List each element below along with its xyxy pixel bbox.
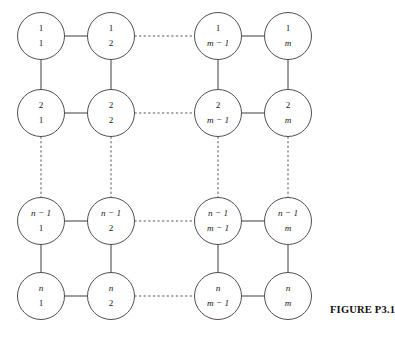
node-circle[interactable] <box>18 273 65 320</box>
node-col-label: 2 <box>109 115 114 125</box>
node-col-label: 2 <box>109 223 114 233</box>
node-circle[interactable] <box>18 198 65 245</box>
node-row-label: 2 <box>109 100 114 110</box>
graph-node[interactable]: 1m <box>265 13 312 60</box>
node-row-label: n <box>286 283 291 293</box>
graph-node[interactable]: 11 <box>18 13 65 60</box>
graph-node[interactable]: nm <box>265 273 312 320</box>
node-col-label: m <box>285 298 292 308</box>
node-col-label: m − 1 <box>207 223 229 233</box>
graph-node[interactable]: n2 <box>88 273 135 320</box>
node-circle[interactable] <box>195 198 242 245</box>
graph-node[interactable]: 2m − 1 <box>195 90 242 137</box>
node-row-label: 1 <box>39 23 44 33</box>
node-col-label: m − 1 <box>207 38 229 48</box>
edge-layer <box>41 36 288 296</box>
graph-node[interactable]: nm − 1 <box>195 273 242 320</box>
node-row-label: 2 <box>216 100 221 110</box>
node-row-label: 1 <box>286 23 291 33</box>
node-col-label: 1 <box>39 38 44 48</box>
node-row-label: n <box>109 283 114 293</box>
node-row-label: n − 1 <box>31 208 51 218</box>
node-row-label: 2 <box>39 100 44 110</box>
node-row-label: n − 1 <box>208 208 228 218</box>
node-col-label: m − 1 <box>207 298 229 308</box>
graph-node[interactable]: n1 <box>18 273 65 320</box>
graph-node[interactable]: n − 12 <box>88 198 135 245</box>
node-col-label: m <box>285 223 292 233</box>
node-circle[interactable] <box>195 13 242 60</box>
graph-node[interactable]: 22 <box>88 90 135 137</box>
node-row-label: 2 <box>286 100 291 110</box>
node-circle[interactable] <box>18 90 65 137</box>
graph-node[interactable]: 12 <box>88 13 135 60</box>
node-row-label: 1 <box>216 23 221 33</box>
graph-node[interactable]: 21 <box>18 90 65 137</box>
node-circle[interactable] <box>195 90 242 137</box>
node-circle[interactable] <box>88 198 135 245</box>
graph-node[interactable]: 1m − 1 <box>195 13 242 60</box>
node-row-label: n <box>39 283 44 293</box>
node-circle[interactable] <box>18 13 65 60</box>
node-col-label: 2 <box>109 38 114 48</box>
graph-node[interactable]: n − 1m − 1 <box>195 198 242 245</box>
node-row-label: 1 <box>109 23 114 33</box>
node-circle[interactable] <box>88 90 135 137</box>
node-circle[interactable] <box>88 13 135 60</box>
node-col-label: m <box>285 115 292 125</box>
node-row-label: n − 1 <box>101 208 121 218</box>
node-row-label: n <box>216 283 221 293</box>
node-col-label: 1 <box>39 223 44 233</box>
graph-node[interactable]: n − 11 <box>18 198 65 245</box>
node-row-label: n − 1 <box>278 208 298 218</box>
node-col-label: m <box>285 38 292 48</box>
node-col-label: 1 <box>39 298 44 308</box>
node-layer: 11121m − 11m21222m − 12mn − 11n − 12n − … <box>18 13 312 320</box>
node-col-label: m − 1 <box>207 115 229 125</box>
node-circle[interactable] <box>88 273 135 320</box>
node-circle[interactable] <box>265 198 312 245</box>
node-col-label: 1 <box>39 115 44 125</box>
node-circle[interactable] <box>265 273 312 320</box>
node-circle[interactable] <box>265 90 312 137</box>
graph-node[interactable]: n − 1m <box>265 198 312 245</box>
node-circle[interactable] <box>265 13 312 60</box>
figure-caption: FIGURE P3.1 <box>330 304 395 315</box>
graph-node[interactable]: 2m <box>265 90 312 137</box>
node-col-label: 2 <box>109 298 114 308</box>
node-circle[interactable] <box>195 273 242 320</box>
